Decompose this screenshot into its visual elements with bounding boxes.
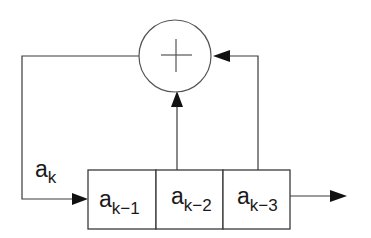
register-label-3-base: a (237, 183, 250, 209)
output-arrow-icon (330, 190, 347, 202)
input-label-base: a (35, 156, 48, 182)
input-arrow-icon (72, 193, 88, 205)
tap-arrow-k2-icon (171, 91, 183, 107)
register-label-1-base: a (99, 186, 112, 212)
tap-line-k3 (226, 56, 258, 170)
adder-circle (139, 20, 211, 92)
lfsr-diagram: ak ak−1 ak−2 ak−3 (0, 0, 371, 238)
adder (139, 20, 211, 92)
register-label-1-sub: k−1 (112, 199, 140, 218)
register-label-2-base: a (171, 183, 184, 209)
tap-arrow-k3-icon (213, 50, 230, 62)
register-label-2-sub: k−2 (184, 196, 212, 215)
input-label: ak (35, 156, 57, 187)
register-label-3-sub: k−3 (250, 196, 278, 215)
input-label-sub: k (48, 168, 57, 187)
